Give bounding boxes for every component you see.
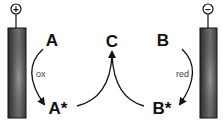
oxidation-label: ox	[36, 69, 46, 79]
reduction-label: red	[176, 69, 189, 79]
species-b-star: B*	[153, 99, 172, 118]
paired-electrolysis-diagram: + − A A* C B B* ox red	[0, 0, 223, 122]
anode-symbol: +	[13, 4, 19, 15]
species-a: A	[46, 31, 58, 50]
a-star-to-c-arrow	[77, 55, 112, 106]
species-b: B	[157, 31, 169, 50]
species-c: C	[106, 32, 118, 51]
anode: +	[8, 4, 26, 119]
b-star-to-c-arrow	[112, 55, 144, 106]
cathode-symbol: −	[205, 4, 211, 15]
c-arrowhead-icon	[108, 50, 116, 58]
cathode: −	[200, 4, 217, 119]
species-a-star: A*	[49, 99, 68, 118]
